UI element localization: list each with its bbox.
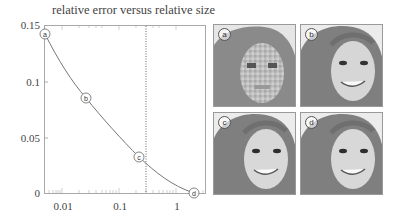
- svg-text:a: a: [43, 31, 47, 38]
- point-d: d: [189, 188, 199, 198]
- panel-c: c: [213, 112, 296, 195]
- x-tick-label: 0.01: [53, 200, 72, 212]
- panel-label: a: [218, 28, 231, 41]
- point-c: c: [134, 152, 144, 162]
- error-curve: [45, 34, 194, 193]
- panel-label: d: [305, 116, 318, 129]
- panel-b: b: [300, 24, 383, 107]
- svg-text:c: c: [137, 154, 141, 161]
- panel-label: b: [305, 28, 318, 41]
- y-tick-label: 0.15: [21, 19, 41, 31]
- point-b: b: [81, 93, 91, 103]
- svg-text:d: d: [192, 190, 196, 197]
- x-ticks: [49, 26, 203, 193]
- panel-label: c: [218, 116, 231, 129]
- y-tick-label: 0: [35, 187, 41, 199]
- y-tick-label: 0.1: [26, 76, 40, 88]
- point-a: a: [40, 29, 50, 39]
- panel-a: a: [213, 24, 296, 107]
- error-plot: a b c d 0.15 0.1 0.05 0 0.01 0.1 1: [0, 0, 212, 216]
- plot-frame: [45, 26, 206, 194]
- x-tick-label: 0.1: [113, 200, 127, 212]
- y-tick-label: 0.05: [21, 132, 41, 144]
- x-tick-label: 1: [174, 200, 180, 212]
- panel-d: d: [300, 112, 383, 195]
- svg-text:b: b: [84, 95, 88, 102]
